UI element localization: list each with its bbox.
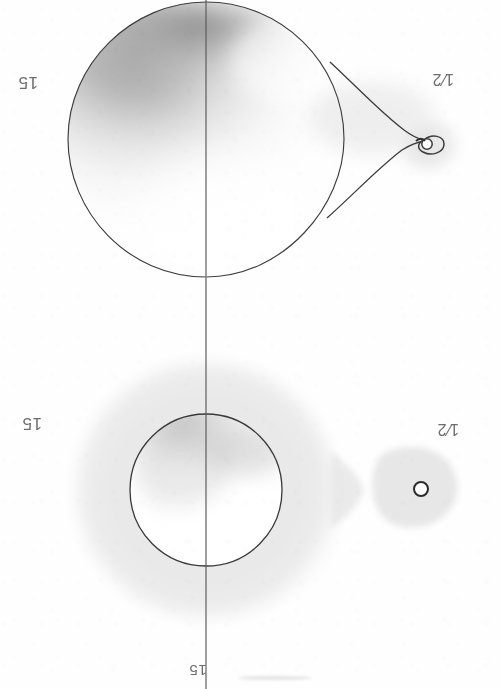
label-lower-right-numerator: 1 [450,420,459,438]
label-upper-right-numerator: 1 [445,70,454,88]
label-lower-left: 15 [22,413,42,433]
fraction-slash-upper: ⁄ [441,71,444,88]
label-upper-left: 15 [18,72,38,92]
roche-lobe-figure [0,0,503,689]
scan-smudge [238,676,312,680]
label-lower-right-denominator: 2 [437,420,446,438]
upper-lobe-shading [46,0,370,282]
label-upper-right-denominator: 2 [432,70,441,88]
label-bottom-axis: 15 [189,662,207,679]
fraction-slash-lower: ⁄ [446,421,449,438]
lower-companion-circle [414,482,428,496]
lower-halo-neck [330,452,364,529]
lower-panel [71,357,457,623]
figure-page: 15 1⁄2 15 1⁄2 15 [0,0,503,689]
label-lower-right-fraction: 1⁄2 [437,420,459,438]
label-upper-right-fraction: 1⁄2 [432,70,454,88]
upper-panel [46,0,462,282]
